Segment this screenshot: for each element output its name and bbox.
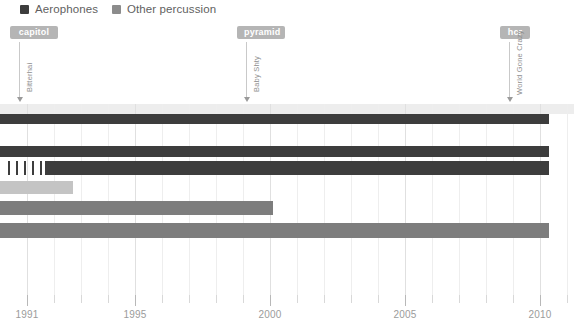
gridline	[27, 104, 28, 295]
bar-dash-tick	[24, 161, 26, 175]
annotation-arrow-icon	[17, 97, 23, 102]
axis-tick	[486, 295, 487, 303]
axis-tick	[540, 295, 541, 306]
annotation-stem	[246, 42, 247, 97]
plot-top-band	[0, 104, 574, 114]
axis-tick	[81, 295, 82, 303]
gridline	[351, 104, 352, 295]
gridline	[81, 104, 82, 295]
axis-tick	[27, 295, 28, 306]
annotation-chip[interactable]: capitol	[10, 26, 58, 39]
annotation-chip[interactable]: pyramid	[237, 26, 285, 39]
gridline	[513, 104, 514, 295]
gridline	[297, 104, 298, 295]
legend-item[interactable]: Other percussion	[112, 4, 216, 16]
timeline-bar[interactable]	[45, 161, 549, 175]
axis-tick-label: 2000	[258, 309, 281, 320]
gridline	[108, 104, 109, 295]
axis-tick	[216, 295, 217, 303]
gridline	[405, 104, 406, 295]
bar-dash-tick	[40, 161, 42, 175]
annotation-arrow-icon	[244, 97, 250, 102]
axis-tick	[162, 295, 163, 303]
axis-tick	[108, 295, 109, 303]
timeline-bar[interactable]	[0, 114, 549, 124]
gridline	[216, 104, 217, 295]
gridline	[459, 104, 460, 295]
gridline	[162, 104, 163, 295]
bar-dash-tick	[8, 161, 10, 175]
annotation-vertical-label: World Gone Crazy	[515, 30, 524, 95]
timeline-bar[interactable]	[0, 146, 549, 157]
axis-tick-label: 2005	[393, 309, 416, 320]
axis-tick-label: 1995	[123, 309, 146, 320]
timeline-bar[interactable]	[0, 201, 273, 215]
axis-tick	[297, 295, 298, 303]
axis-tick	[513, 295, 514, 303]
gridline	[378, 104, 379, 295]
axis-tick	[189, 295, 190, 303]
bar-dash-tick	[16, 161, 18, 175]
bar-dash-tick	[32, 161, 34, 175]
gridline	[189, 104, 190, 295]
gridline	[432, 104, 433, 295]
gridline	[135, 104, 136, 295]
axis-tick-label: 1991	[15, 309, 38, 320]
axis-tick	[324, 295, 325, 303]
gridline	[324, 104, 325, 295]
gridline	[270, 104, 271, 295]
gridline	[243, 104, 244, 295]
annotation-arrow-icon	[507, 97, 513, 102]
axis-tick	[135, 295, 136, 306]
annotation-stem	[19, 42, 20, 97]
gridline	[54, 104, 55, 295]
axis-tick	[567, 295, 568, 303]
timeline-bar[interactable]	[0, 181, 73, 194]
axis-tick-label: 2010	[528, 309, 551, 320]
axis-tick	[405, 295, 406, 306]
axis-tick	[54, 295, 55, 303]
annotation-vertical-label: Bitterhai	[25, 63, 34, 92]
axis-tick	[351, 295, 352, 303]
axis-tick	[270, 295, 271, 306]
annotation-vertical-label: Baby Shty	[252, 56, 261, 92]
legend-item-label: Aerophones	[35, 4, 98, 16]
annotation-stem	[509, 42, 510, 97]
legend-item-label: Other percussion	[127, 4, 216, 16]
axis-tick	[432, 295, 433, 303]
legend-swatch-icon	[20, 5, 29, 14]
axis-tick	[378, 295, 379, 303]
legend-item[interactable]: Aerophones	[20, 4, 98, 16]
timeline-bar[interactable]	[0, 223, 549, 238]
gridline	[486, 104, 487, 295]
chart-canvas: AerophonesOther percussion capitolBitter…	[0, 0, 574, 326]
axis-tick	[243, 295, 244, 303]
chart-legend: AerophonesOther percussion	[0, 0, 574, 22]
axis-tick	[459, 295, 460, 303]
legend-swatch-icon	[112, 5, 121, 14]
gridline	[540, 104, 541, 295]
x-axis: 19911995200020052010	[0, 295, 574, 326]
plot-area	[0, 104, 574, 295]
gridline	[567, 104, 568, 295]
